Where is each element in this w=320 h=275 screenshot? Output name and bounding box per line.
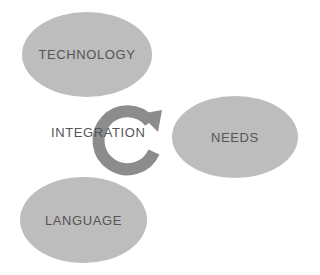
node-needs: NEEDS	[172, 96, 298, 178]
circular-arrow-icon	[88, 100, 168, 180]
node-needs-label: NEEDS	[211, 130, 259, 145]
node-technology: TECHNOLOGY	[22, 12, 152, 97]
node-technology-label: TECHNOLOGY	[38, 47, 135, 62]
node-language: LANGUAGE	[20, 177, 147, 263]
center-integration-label: INTEGRATION	[51, 125, 145, 140]
node-language-label: LANGUAGE	[45, 213, 122, 228]
